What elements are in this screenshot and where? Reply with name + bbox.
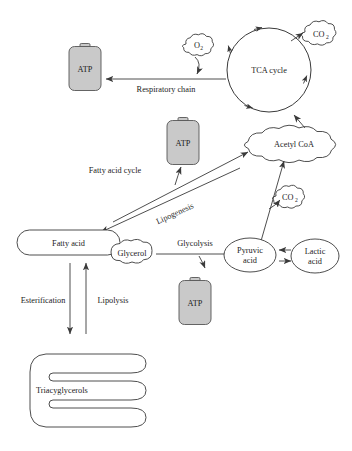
respiratory-chain-label: Respiratory chain [137,85,197,94]
fatty-acid-node: Fatty acid [17,230,120,255]
edge-lipogenesis [101,168,240,232]
edge-o2-to-respiratory-chain [195,57,199,74]
fatty-acid-label: Fatty acid [52,239,86,248]
fatty-acid-cycle-label: Fatty acid cycle [89,166,142,175]
cycle-arrow-left [228,46,230,54]
atp-fatty-acid-node: ATP [167,118,199,165]
atp-glycolysis-node: ATP [179,278,211,325]
oxygen-label: O [194,41,200,50]
cycle-arrow-right [304,76,307,84]
atp-glycolysis-label: ATP [188,299,203,308]
triacyglycerols-node: Triacyglycerols [30,354,146,427]
triacyglycerols-label: Triacyglycerols [36,386,88,395]
lactic-acid-label-line1: Lactic [305,247,326,256]
co2-pyruvate-label: CO [282,193,294,202]
ellipse-icon [224,238,276,272]
metabolic-pathway-diagram: TCA cycle CO 2 O 2 Respiratory chain ATP… [0,0,352,451]
lipolysis-label: Lipolysis [98,296,129,305]
esterification-label: Esterification [21,296,67,305]
co2-tca-subscript: 2 [326,34,329,40]
atp-fatty-acid-label: ATP [176,139,191,148]
tca-cycle-node: TCA cycle [227,28,311,112]
atp-respiratory-node: ATP [69,44,101,91]
co2-tca-node: CO 2 [301,21,336,46]
edge-glycolysis-to-atp [199,256,205,268]
oxygen-subscript: 2 [200,45,203,51]
co2-pyruvate-node: CO 2 [272,185,304,208]
glycolysis-label: Glycolysis [177,239,213,248]
pathway-canvas: TCA cycle CO 2 O 2 Respiratory chain ATP… [0,0,352,451]
edge-tca-to-co2 [291,33,303,41]
lactic-acid-node: Lactic acid [291,239,339,273]
edge-fatty-acid-cycle-to-atp [175,167,181,185]
atp-respiratory-label: ATP [78,65,93,74]
co2-pyruvate-subscript: 2 [295,197,298,203]
pyruvic-acid-label-line1: Pyruvic [237,246,263,255]
co2-tca-label: CO [313,30,325,39]
lactic-acid-label-line2: acid [308,257,323,266]
acetyl-coa-label: Acetyl CoA [274,140,314,149]
tca-cycle-label: TCA cycle [251,66,287,75]
pyruvic-acid-node: Pyruvic acid [224,238,276,272]
glycerol-label: Glycerol [117,249,147,258]
cycle-arrow-bottom [245,106,253,109]
pyruvic-acid-label-line2: acid [243,256,258,265]
lipogenesis-label: Lipogenesis [155,201,195,226]
ellipse-icon [291,239,339,273]
acetyl-coa-node: Acetyl CoA [244,125,335,162]
oxygen-node: O 2 [182,34,213,56]
